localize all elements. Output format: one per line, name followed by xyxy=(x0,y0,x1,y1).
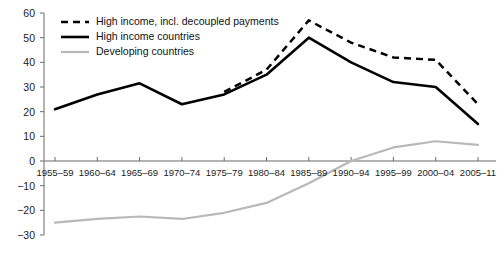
legend-item-high-income-countries: High income countries xyxy=(60,29,279,44)
y-axis-tick-label: −30 xyxy=(0,230,35,241)
legend-item-developing-countries: Developing countries xyxy=(60,44,279,59)
dashed-black-line-icon xyxy=(60,16,90,28)
chart-legend: High income, incl. decoupled payments Hi… xyxy=(60,14,279,59)
series-line-2 xyxy=(55,141,478,222)
y-axis-tick-label: 10 xyxy=(0,131,35,142)
y-axis-tick-label: −20 xyxy=(0,205,35,216)
y-axis-tick-label: 50 xyxy=(0,33,35,44)
y-axis-tick-label: 0 xyxy=(0,156,35,167)
solid-gray-line-icon xyxy=(60,46,90,58)
x-axis-tick-label: 2005–11 xyxy=(452,168,504,178)
chart-container: 6050403020100−10−20−30 1955–591960–64196… xyxy=(0,0,504,263)
legend-label: Developing countries xyxy=(96,46,194,57)
y-axis-tick-label: 30 xyxy=(0,82,35,93)
y-axis-tick-label: 40 xyxy=(0,57,35,68)
legend-label: High income countries xyxy=(96,31,200,42)
y-axis-tick-label: −10 xyxy=(0,181,35,192)
y-axis-tick-label: 60 xyxy=(0,8,35,19)
solid-black-line-icon xyxy=(60,31,90,43)
legend-item-high-income-decoupled: High income, incl. decoupled payments xyxy=(60,14,279,29)
y-axis-tick-label: 20 xyxy=(0,107,35,118)
legend-label: High income, incl. decoupled payments xyxy=(96,16,279,27)
